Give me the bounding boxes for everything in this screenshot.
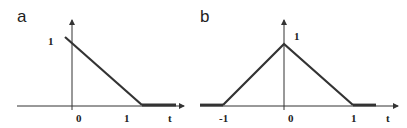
panel-b-x-axis-label: t bbox=[386, 112, 390, 124]
panel-a-y-tick-1: 1 bbox=[48, 35, 54, 47]
panel-a-x-tick-1: 1 bbox=[124, 112, 130, 124]
panel-b-label: b bbox=[200, 7, 209, 26]
figure: a 1 0 1 t b 1 -1 0 1 t bbox=[0, 0, 407, 128]
panel-b-x-tick-neg1: -1 bbox=[219, 112, 228, 124]
panel-b-x-tick-0: 0 bbox=[288, 112, 294, 124]
panel-a: a 1 0 1 t bbox=[17, 7, 184, 124]
panel-a-ramp-curve bbox=[65, 37, 142, 105]
panel-b-triangle-curve bbox=[223, 44, 353, 105]
panel-a-x-axis-label: t bbox=[168, 112, 172, 124]
panel-a-label: a bbox=[17, 7, 27, 26]
panel-b: b 1 -1 0 1 t bbox=[200, 7, 398, 124]
panel-b-y-tick-1: 1 bbox=[294, 30, 300, 42]
panel-b-x-tick-1: 1 bbox=[351, 112, 357, 124]
panel-a-x-tick-0: 0 bbox=[76, 112, 82, 124]
